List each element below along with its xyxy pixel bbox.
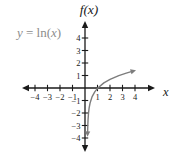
y-axis-bottom-arrow [82,145,88,152]
ln-curve [88,72,132,132]
y-tick-label: −2 [71,108,80,118]
y-tick-label: −3 [71,121,80,131]
x-axis-label: x [162,85,169,99]
equation-label: y = ln(x) [15,25,61,40]
figure-title: f(x) [80,2,99,17]
y-tick-label: −4 [71,133,81,143]
x-tick-label: −3 [43,92,52,102]
ln-function-figure: −4−3−2−11234−4−3−2−11234 f(x) x y = ln(x… [0,0,177,168]
curve-lower-arrow [85,131,90,137]
y-tick-label: 3 [76,46,80,56]
y-axis-top-arrow [82,21,88,28]
y-tick-label: −1 [71,96,80,106]
plot-svg: −4−3−2−11234−4−3−2−11234 f(x) x y = ln(x… [0,0,177,168]
plot-layer: −4−3−2−11234−4−3−2−11234 [22,21,155,152]
y-tick-label: 2 [76,58,80,68]
x-axis-right-arrow [148,85,155,91]
x-tick-label: −2 [55,92,64,102]
x-tick-label: 3 [120,92,124,102]
x-tick-label: 4 [133,92,138,102]
x-tick-label: 1 [95,92,99,102]
x-tick-label: −4 [30,92,40,102]
curve-upper-arrow [130,69,136,74]
y-tick-label: 4 [76,33,81,43]
x-axis-left-arrow [22,85,29,91]
y-tick-label: 1 [76,71,80,81]
x-tick-label: 2 [108,92,112,102]
